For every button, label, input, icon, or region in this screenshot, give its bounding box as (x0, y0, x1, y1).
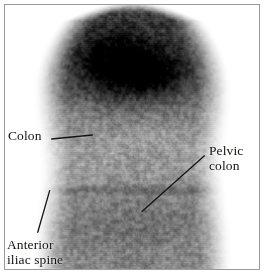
figure-frame: Colon Pelvic colon Anterior iliac spine (4, 4, 260, 270)
scintigram-figure: Colon Pelvic colon Anterior iliac spine (0, 0, 265, 274)
scintigram-canvas (5, 5, 259, 269)
scan-image (5, 5, 259, 269)
